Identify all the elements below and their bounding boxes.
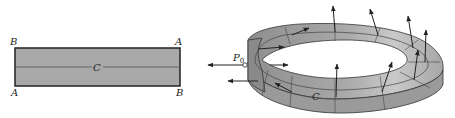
corner-top-right-label: A	[174, 36, 182, 47]
mobius-strip-diagram: B A A B C	[0, 0, 455, 118]
corner-bottom-left-label: A	[10, 87, 18, 98]
center-curve-label: C	[93, 62, 101, 73]
corner-bottom-right-label: B	[175, 87, 183, 98]
point-p0-label: P0	[232, 52, 244, 65]
mobius-strip: P0 C	[208, 6, 443, 113]
curve-c-label: C	[312, 91, 320, 102]
corner-top-left-label: B	[9, 36, 17, 47]
flat-strip: B A A B C	[9, 36, 183, 98]
